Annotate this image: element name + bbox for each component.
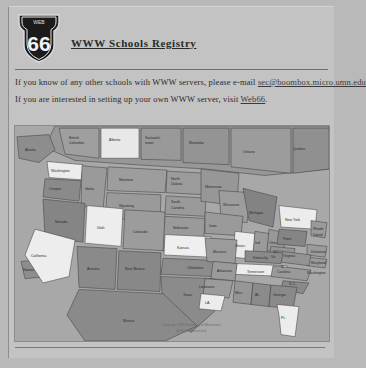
server-text-before: If you are interested in setting up your…	[15, 94, 241, 104]
svg-text:North: North	[171, 177, 180, 181]
svg-text:S.C.: S.C.	[289, 282, 296, 286]
svg-text:LA.: LA.	[205, 301, 210, 305]
copyright-line-2: All Rights Reserved	[176, 329, 206, 333]
footer-divider	[15, 347, 325, 348]
svg-text:Carolina: Carolina	[277, 270, 291, 274]
svg-text:Tennessee: Tennessee	[247, 270, 264, 274]
email-link[interactable]: sec@boombox.micro.umn.edu	[258, 77, 366, 87]
svg-text:Kansas: Kansas	[177, 245, 189, 249]
svg-text:Wisconsin: Wisconsin	[223, 202, 239, 206]
svg-text:Wyoming: Wyoming	[119, 204, 134, 208]
svg-text:Washington: Washington	[307, 271, 326, 275]
svg-text:Alberta: Alberta	[109, 138, 121, 142]
page-frame: WEB 66 WWW Schools Registry If you know …	[8, 6, 334, 358]
shield-number: 66	[27, 32, 50, 55]
server-paragraph: If you are interested in setting up your…	[15, 94, 334, 104]
svg-text:Penn: Penn	[283, 237, 291, 241]
svg-text:Louisiana: Louisiana	[199, 285, 215, 289]
page-header: WEB 66 WWW Schools Registry	[9, 7, 334, 65]
svg-text:Mexico: Mexico	[123, 319, 134, 323]
svg-text:Minnesota: Minnesota	[205, 185, 222, 189]
svg-text:Alaska: Alaska	[25, 148, 37, 152]
svg-text:ewan: ewan	[145, 141, 154, 145]
contact-text-before: If you know of any other schools with WW…	[15, 77, 258, 87]
svg-text:Oregon: Oregon	[49, 187, 61, 191]
svg-text:South: South	[171, 200, 180, 204]
svg-text:Dakota: Dakota	[171, 182, 183, 186]
svg-text:Arizona: Arizona	[87, 267, 100, 271]
svg-text:Ontario: Ontario	[243, 150, 255, 154]
svg-text:Miss: Miss	[235, 291, 242, 295]
svg-text:Ind: Ind	[255, 241, 260, 245]
svg-text:Hawaii: Hawaii	[23, 268, 34, 272]
svg-text:Illinois: Illinois	[235, 244, 245, 248]
svg-text:Montana: Montana	[119, 178, 134, 182]
svg-text:Washington: Washington	[51, 169, 70, 173]
server-text-after: .	[265, 94, 267, 104]
svg-text:W.: W.	[273, 250, 277, 254]
svg-text:Island: Island	[313, 233, 323, 237]
web66-link[interactable]: Web66	[241, 94, 266, 104]
svg-text:Nebraska: Nebraska	[173, 226, 189, 230]
copyright-line-1: Copyright 1995 University of Minnesota	[161, 323, 220, 327]
route-66-shield-logo[interactable]: WEB 66	[15, 12, 63, 64]
svg-text:Oklahoma: Oklahoma	[187, 266, 204, 270]
svg-text:FL.: FL.	[281, 316, 286, 320]
svg-text:Arkansas: Arkansas	[217, 269, 232, 273]
svg-text:Vir.: Vir.	[271, 255, 276, 259]
svg-text:Columbia: Columbia	[69, 141, 85, 145]
page-title: WWW Schools Registry	[71, 37, 196, 49]
svg-text:Delaware: Delaware	[311, 250, 326, 254]
svg-text:British: British	[69, 136, 79, 140]
svg-text:Maryland: Maryland	[311, 260, 326, 264]
svg-text:Iowa: Iowa	[209, 224, 217, 228]
svg-text:Virginia: Virginia	[283, 254, 296, 258]
svg-text:Missouri: Missouri	[213, 250, 227, 254]
svg-text:California: California	[31, 254, 47, 258]
svg-text:Quebec: Quebec	[293, 147, 306, 151]
svg-text:N.: N.	[281, 265, 285, 269]
svg-text:New York: New York	[285, 217, 300, 221]
header-divider	[15, 69, 328, 70]
svg-text:Saskatch-: Saskatch-	[145, 136, 162, 140]
svg-text:Ohio: Ohio	[269, 241, 277, 245]
svg-text:Texas: Texas	[183, 293, 192, 297]
contact-paragraph: If you know of any other schools with WW…	[15, 77, 334, 87]
svg-text:Utah: Utah	[97, 226, 105, 230]
svg-text:Georgia: Georgia	[273, 293, 287, 297]
svg-text:AL.: AL.	[255, 293, 260, 297]
svg-text:Manitoba: Manitoba	[189, 141, 205, 145]
svg-text:Nevada: Nevada	[55, 220, 68, 224]
svg-text:Colorado: Colorado	[133, 230, 148, 234]
shield-top-text: WEB	[33, 19, 45, 25]
svg-text:Carolina: Carolina	[171, 206, 185, 210]
svg-text:New Mexico: New Mexico	[125, 267, 145, 271]
map-svg[interactable]: Alaska British Columbia Alberta Saskatch…	[15, 126, 329, 341]
svg-text:Rhode: Rhode	[313, 227, 324, 231]
svg-text:Michigan: Michigan	[249, 211, 263, 215]
svg-text:Kentucky: Kentucky	[253, 256, 268, 260]
usa-clickable-map[interactable]: Alaska British Columbia Alberta Saskatch…	[14, 125, 330, 342]
svg-text:Idaho: Idaho	[85, 187, 94, 191]
